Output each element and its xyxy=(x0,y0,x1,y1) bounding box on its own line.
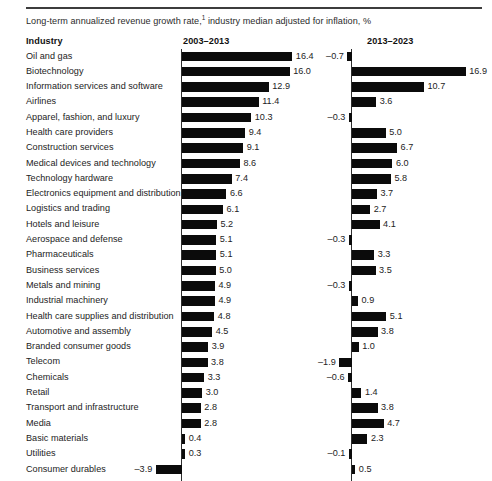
value-label-period-1: 2.8 xyxy=(201,418,217,429)
bar-period-2 xyxy=(339,358,352,368)
value-label-period-2: 10.7 xyxy=(424,81,445,92)
bar-panel-period-1: 2.8 xyxy=(182,401,352,416)
value-label-period-2: 3.3 xyxy=(374,249,390,260)
value-label-period-1: 4.9 xyxy=(215,295,231,306)
bar-panel-period-2: 2.7 xyxy=(352,202,492,217)
bar-panel-period-1: 4.8 xyxy=(182,309,352,324)
value-label-period-2: 3.8 xyxy=(378,402,394,413)
bar-panel-period-1: 4.5 xyxy=(182,324,352,339)
bar-panel-period-2: –0.1 xyxy=(352,447,492,462)
value-label-period-2: 16.9 xyxy=(466,66,487,77)
value-label-period-1: 9.1 xyxy=(243,142,259,153)
bar-panel-period-2: –0.7 xyxy=(352,49,492,64)
subtitle-text-post: industry median adjusted for inflation, … xyxy=(205,16,371,26)
value-label-period-2: 1.0 xyxy=(359,341,375,352)
bar-panel-period-1: 6.6 xyxy=(182,187,352,202)
bar-period-2 xyxy=(352,205,370,215)
bar-period-1 xyxy=(182,220,217,230)
value-label-period-1: 4.5 xyxy=(212,326,228,337)
value-label-period-2: –0.6 xyxy=(327,372,348,383)
chart-row: Consumer durables–3.90.5 xyxy=(0,462,492,477)
value-label-period-1: 2.8 xyxy=(201,402,217,413)
value-label-period-1: 5.1 xyxy=(216,249,232,260)
bar-period-2 xyxy=(352,327,378,337)
value-label-period-2: –0.3 xyxy=(328,280,349,291)
subtitle-text-pre: Long-term annualized revenue growth rate… xyxy=(26,16,202,26)
chart-row: Utilities0.3–0.1 xyxy=(0,447,492,462)
chart-row: Business services5.03.5 xyxy=(0,263,492,278)
bar-panel-period-1: 7.4 xyxy=(182,171,352,186)
value-label-period-1: 3.0 xyxy=(202,387,218,398)
chart-row: Health care providers9.45.0 xyxy=(0,125,492,140)
bar-period-2 xyxy=(349,235,352,245)
bar-period-1 xyxy=(182,281,215,291)
chart-row: Telecom3.8–1.9 xyxy=(0,355,492,370)
chart-row: Oil and gas16.4–0.7 xyxy=(0,49,492,64)
value-label-period-1: 12.9 xyxy=(269,81,290,92)
industry-label: Apparel, fashion, and luxury xyxy=(26,112,140,123)
industry-label: Medical devices and technology xyxy=(26,158,156,169)
chart-row: Airlines11.43.6 xyxy=(0,95,492,110)
bar-period-1 xyxy=(182,250,216,260)
bar-period-1 xyxy=(182,373,204,383)
value-label-period-2: –0.1 xyxy=(328,448,349,459)
value-label-period-1: 5.0 xyxy=(216,265,232,276)
bar-panel-period-1: 5.0 xyxy=(182,263,352,278)
value-label-period-1: 11.4 xyxy=(259,96,280,107)
value-label-period-2: 2.3 xyxy=(367,433,383,444)
bar-period-1 xyxy=(182,159,240,169)
bar-period-2 xyxy=(352,220,380,230)
bar-period-2 xyxy=(352,128,386,138)
industry-label: Aerospace and defense xyxy=(26,234,123,245)
bar-panel-period-2: –0.3 xyxy=(352,110,492,125)
chart-row: Biotechnology16.016.9 xyxy=(0,64,492,79)
bar-panel-period-1: 8.6 xyxy=(182,156,352,171)
value-label-period-2: 3.7 xyxy=(377,188,393,199)
chart-subtitle: Long-term annualized revenue growth rate… xyxy=(26,16,476,27)
bar-period-1 xyxy=(182,342,208,352)
bar-panel-period-1: 4.9 xyxy=(182,278,352,293)
industry-label: Business services xyxy=(26,265,99,276)
bar-period-2 xyxy=(349,281,352,291)
value-label-period-1: 5.2 xyxy=(217,219,233,230)
bar-period-2 xyxy=(352,159,392,169)
bar-period-1 xyxy=(182,358,208,368)
industry-label: Branded consumer goods xyxy=(26,341,131,352)
bar-panel-period-2: 16.9 xyxy=(352,64,492,79)
value-label-period-1: 10.3 xyxy=(251,112,272,123)
bar-period-2 xyxy=(352,67,466,77)
industry-label: Logistics and trading xyxy=(26,203,110,214)
bar-panel-period-2: 0.9 xyxy=(352,294,492,309)
bar-panel-period-2: 3.8 xyxy=(352,401,492,416)
chart-row: Industrial machinery4.90.9 xyxy=(0,294,492,309)
bar-panel-period-1: 9.4 xyxy=(182,125,352,140)
value-label-period-2: –1.9 xyxy=(318,357,339,368)
chart-row: Logistics and trading6.12.7 xyxy=(0,202,492,217)
industry-label: Technology hardware xyxy=(26,173,113,184)
chart-row: Basic materials0.42.3 xyxy=(0,431,492,446)
chart-row: Retail3.01.4 xyxy=(0,386,492,401)
bar-period-1 xyxy=(182,266,216,276)
industry-label: Media xyxy=(26,418,51,429)
value-label-period-1: 8.6 xyxy=(240,158,256,169)
bar-panel-period-2: 3.6 xyxy=(352,95,492,110)
chart-row: Electronics equipment and distribution6.… xyxy=(0,187,492,202)
bar-period-2 xyxy=(352,174,391,184)
bar-panel-period-2: 2.3 xyxy=(352,431,492,446)
industry-label: Airlines xyxy=(26,96,56,107)
bar-period-1 xyxy=(182,388,202,398)
value-label-period-1: 3.8 xyxy=(208,357,224,368)
bar-period-1 xyxy=(182,82,269,92)
value-label-period-2: 3.6 xyxy=(376,96,392,107)
chart-row: Information services and software12.910.… xyxy=(0,80,492,95)
bar-period-2 xyxy=(349,449,352,459)
bar-period-2 xyxy=(352,388,361,398)
chart-row: Media2.84.7 xyxy=(0,416,492,431)
bar-period-1 xyxy=(182,52,292,62)
bar-period-2 xyxy=(352,419,384,429)
value-label-period-2: 3.8 xyxy=(378,326,394,337)
industry-label: Metals and mining xyxy=(26,280,100,291)
chart-row: Chemicals3.3–0.6 xyxy=(0,370,492,385)
industry-label: Basic materials xyxy=(26,433,88,444)
